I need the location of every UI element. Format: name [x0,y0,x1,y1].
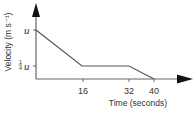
velocity-time-graph: u 1 4 u 16 32 40 Time (seconds) Velocity… [0,0,194,116]
x-tick-label-32: 32 [124,86,134,96]
velocity-line [36,30,154,79]
x-tick-label-16: 16 [78,86,88,96]
y-tick-label-quarter-u: u [24,60,30,72]
x-tick-label-40: 40 [149,86,159,96]
y-tick-label-quarter-den: 4 [19,65,22,71]
y-tick-label-quarter-num: 1 [19,59,22,65]
y-axis-title: Velocity (m s⁻¹) [3,12,13,71]
y-tick-label-u: u [24,24,30,36]
y-axis-arrow-icon [32,3,40,17]
x-axis-title: Time (seconds) [109,98,167,108]
x-axis-arrow-icon [177,75,193,84]
